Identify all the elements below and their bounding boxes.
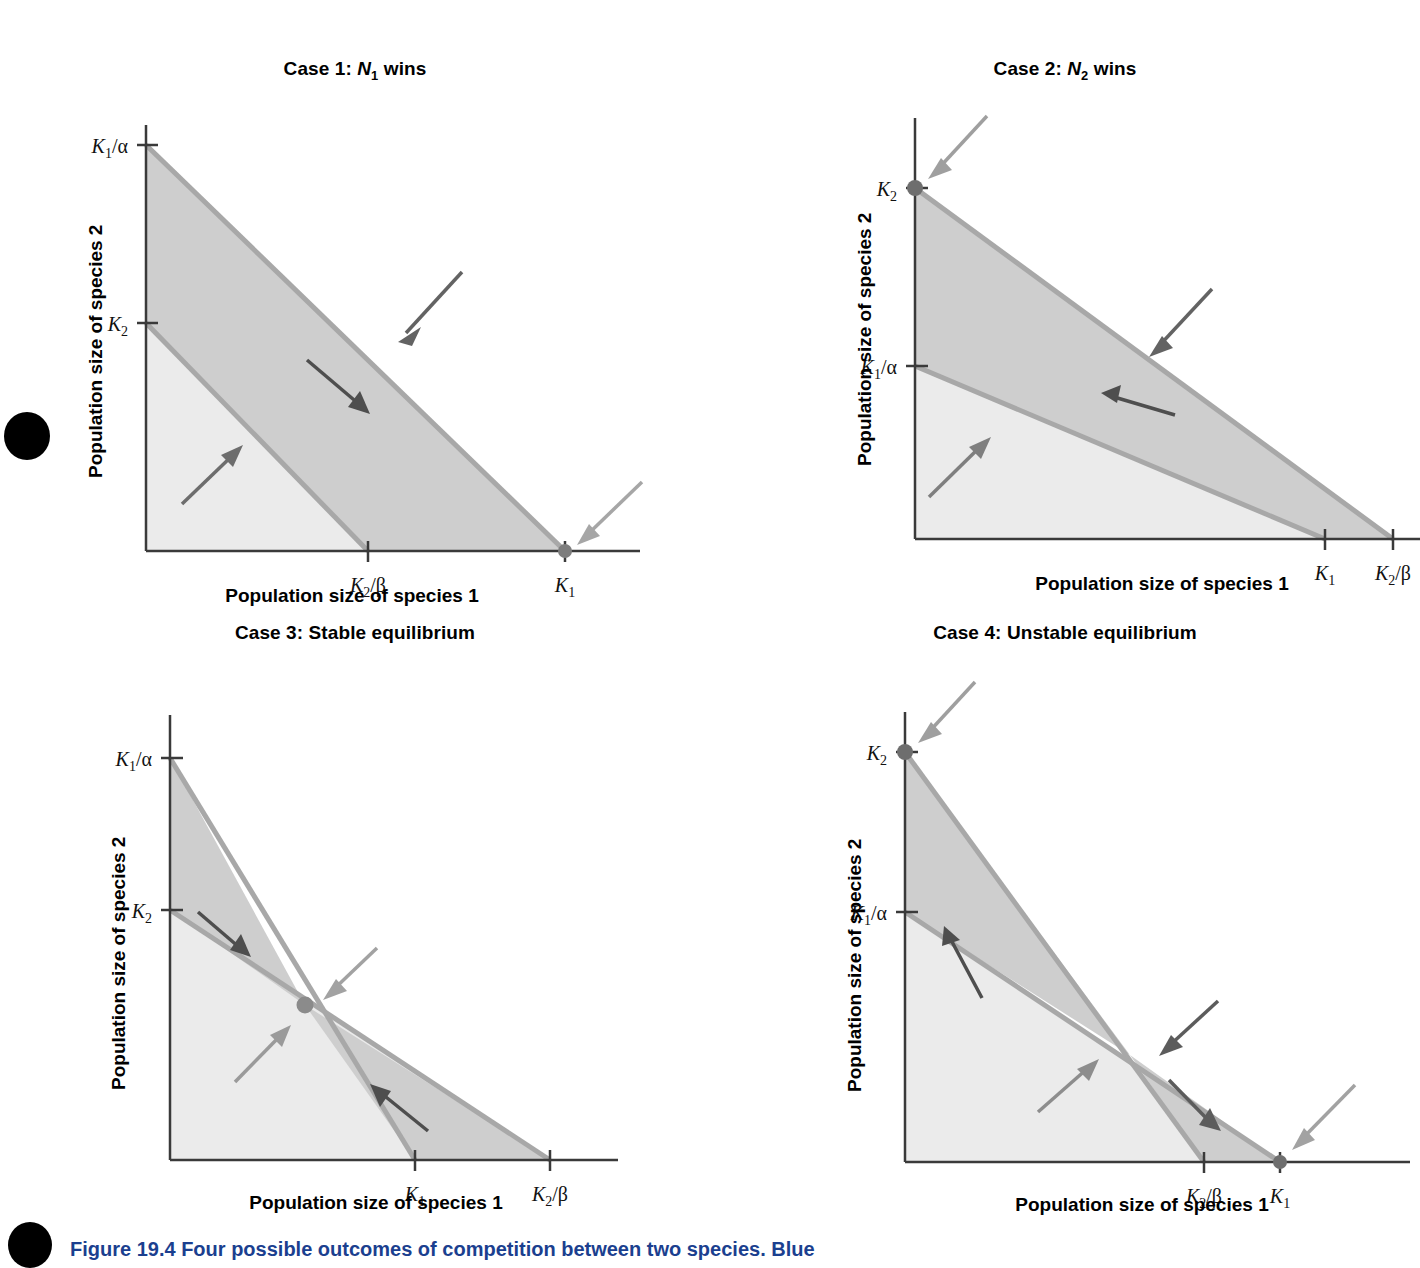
arrow-pointer-light bbox=[577, 482, 642, 545]
y-tick-label-K2: K2 bbox=[876, 178, 897, 204]
equilibrium-dot-K2 bbox=[907, 180, 923, 196]
figure-caption: Figure 19.4 Four possible outcomes of co… bbox=[70, 1238, 815, 1261]
x-axis-label-case-2: Population size of species 1 bbox=[662, 573, 1420, 595]
figure-caption-text: Figure 19.4 Four possible outcomes of co… bbox=[70, 1238, 815, 1260]
plot-case-3: K1/α K2 K1 K2/β bbox=[0, 650, 710, 1220]
y-axis-label-case-2: Population size of species 2 bbox=[854, 213, 876, 466]
panel-case-4: Case 4: Unstable equilibrium K2 K1/α K2/… bbox=[710, 600, 1420, 1240]
arrow-mid-pointer-dark bbox=[1159, 1001, 1218, 1056]
y-tick-label-K2: K2 bbox=[131, 900, 152, 926]
plot-case-4: K2 K1/α K2/β K1 bbox=[710, 650, 1420, 1220]
arrow-pointer-light bbox=[928, 116, 987, 179]
x-axis-label-case-4: Population size of species 1 bbox=[642, 1194, 1420, 1216]
y-axis-label-case-4: Population size of species 2 bbox=[844, 839, 866, 1092]
panel-case-2: Case 2: N2 wins K2 K1/α K1 K2/β bbox=[710, 0, 1420, 610]
case-label: Case 4: Unstable equilibrium bbox=[933, 622, 1197, 643]
arrow-upper-dark bbox=[398, 272, 462, 346]
arrow-pointer-bottom-light bbox=[1292, 1085, 1355, 1150]
arrow-upper-dark bbox=[1149, 289, 1212, 357]
equilibrium-dot-K1 bbox=[1273, 1155, 1287, 1169]
y-axis-label-case-3: Population size of species 2 bbox=[108, 837, 130, 1090]
panel-case-1: Case 1: N1 wins K1/α K2 K2/β K1 bbox=[0, 0, 710, 610]
arrow-pointer-top-light bbox=[918, 682, 975, 743]
y-tick-label-K1-alpha: K1/α bbox=[91, 135, 129, 161]
arrow-pointer-light bbox=[323, 948, 377, 1000]
case-label: Case 3: Stable equilibrium bbox=[235, 622, 475, 643]
equilibrium-dot-stable bbox=[297, 997, 314, 1014]
equilibrium-dot-K2 bbox=[897, 744, 913, 760]
y-tick-label-K1-alpha: K1/α bbox=[115, 748, 153, 774]
y-tick-label-K2: K2 bbox=[866, 742, 887, 768]
plot-case-2: K2 K1/α K1 K2/β bbox=[710, 50, 1420, 610]
equilibrium-dot-K1 bbox=[558, 544, 572, 558]
y-axis-label-case-1: Population size of species 2 bbox=[85, 225, 107, 478]
panel-title-case-3: Case 3: Stable equilibrium bbox=[0, 622, 710, 644]
panel-title-case-4: Case 4: Unstable equilibrium bbox=[710, 622, 1420, 644]
panel-case-3: Case 3: Stable equilibrium K1/α K2 K1 K2… bbox=[0, 600, 710, 1240]
y-tick-label-K2: K2 bbox=[107, 313, 128, 339]
